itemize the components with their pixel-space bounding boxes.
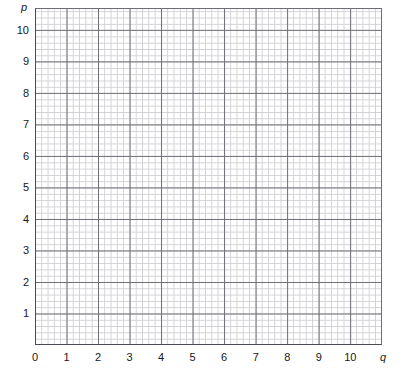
- y-axis-tick-7: 7: [0, 119, 29, 130]
- x-axis-name-label: q: [380, 352, 386, 363]
- y-axis-tick-2: 2: [0, 277, 29, 288]
- x-axis-tick-8: 8: [274, 352, 300, 363]
- x-axis-tick-5: 5: [180, 352, 206, 363]
- x-axis-tick-3: 3: [117, 352, 143, 363]
- x-axis-tick-6: 6: [211, 352, 237, 363]
- x-axis-tick-0: 0: [22, 352, 48, 363]
- x-axis-tick-10: 10: [337, 352, 363, 363]
- y-axis-tick-5: 5: [0, 182, 29, 193]
- y-axis-tick-6: 6: [0, 151, 29, 162]
- y-axis-tick-9: 9: [0, 56, 29, 67]
- graph-paper-figure: p 10987654321 012345678910 q: [0, 0, 405, 386]
- x-axis-tick-2: 2: [85, 352, 111, 363]
- y-axis-name-label: p: [21, 2, 27, 13]
- y-axis-tick-8: 8: [0, 88, 29, 99]
- y-axis-tick-4: 4: [0, 214, 29, 225]
- x-axis-tick-1: 1: [54, 352, 80, 363]
- y-axis-tick-10: 10: [0, 25, 29, 36]
- y-axis-tick-1: 1: [0, 308, 29, 319]
- x-axis-tick-9: 9: [306, 352, 332, 363]
- x-axis-tick-7: 7: [243, 352, 269, 363]
- y-axis-tick-3: 3: [0, 245, 29, 256]
- x-axis-tick-4: 4: [148, 352, 174, 363]
- plot-area[interactable]: [35, 8, 382, 345]
- major-gridlines: [35, 8, 382, 345]
